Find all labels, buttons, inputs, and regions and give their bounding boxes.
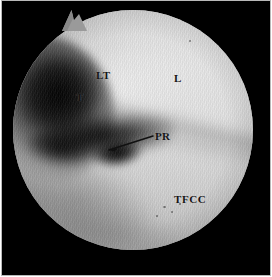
image-plate: LT L T PR TFCC xyxy=(2,1,270,275)
scope-vignette xyxy=(13,10,253,250)
scope-field-of-view xyxy=(13,10,253,250)
arthroscopy-figure: LT L T PR TFCC xyxy=(0,0,272,277)
